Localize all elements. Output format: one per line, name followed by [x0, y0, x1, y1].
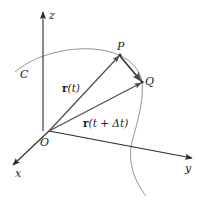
point-q — [140, 80, 143, 83]
diagram-canvas: z x y O C P Q r(t) r(t + Δt) — [0, 0, 199, 204]
point-p-label: P — [116, 40, 125, 53]
secant-pq — [120, 56, 141, 81]
y-axis-label: y — [184, 162, 192, 175]
z-axis-label: z — [48, 9, 55, 22]
point-p — [118, 53, 121, 56]
vector-r-t-dt-label: r(t + Δt) — [83, 117, 128, 129]
origin-label: O — [40, 136, 49, 149]
point-q-label: Q — [145, 75, 154, 88]
vector-r-t-label: r(t) — [62, 82, 80, 94]
curve-label: C — [20, 68, 29, 81]
vector-r-t-dt-rest: (t + Δt) — [89, 117, 129, 129]
x-axis-label: x — [15, 167, 22, 180]
y-axis — [49, 131, 192, 158]
vector-r-t-rest: (t) — [68, 82, 80, 94]
